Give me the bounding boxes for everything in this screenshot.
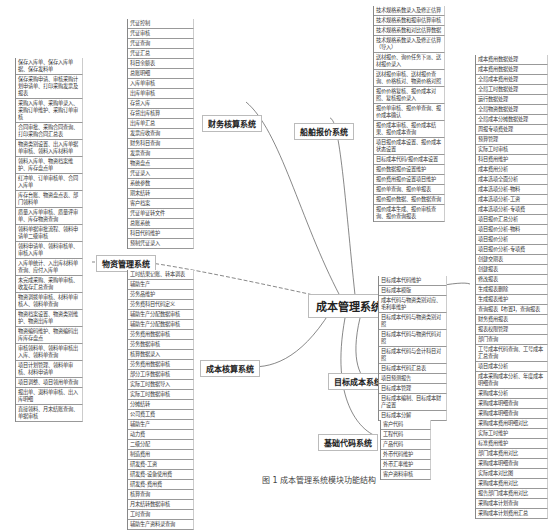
leaf-node[interactable]: 项目调整、项目领用单查询	[16, 378, 83, 388]
leaf-node[interactable]: 工程代码	[381, 430, 431, 440]
leaf-node[interactable]: 技术规格系数和对比估算数据	[374, 26, 445, 36]
leaf-node[interactable]: 期末结转	[128, 189, 194, 199]
leaf-node[interactable]: 送材报价、询价任务下派、送材报价录入	[374, 53, 445, 70]
leaf-node[interactable]: 领料入库单、物资档案维护、库存盘点单	[16, 157, 83, 174]
leaf-node[interactable]: 发票查询	[128, 149, 194, 159]
leaf-node[interactable]: 外币代码维护	[381, 450, 431, 460]
leaf-node[interactable]: 客户档案	[128, 199, 194, 209]
leaf-node[interactable]: 总账系统	[128, 219, 194, 229]
leaf-node[interactable]: 采购成本明细查询	[476, 459, 548, 469]
leaf-node[interactable]: 采购成本明细查询	[476, 399, 548, 409]
leaf-node[interactable]: 采购成本分析	[476, 389, 548, 399]
leaf-node[interactable]: 修改报表	[476, 275, 548, 285]
leaf-node[interactable]: 研发费-设备使用费	[128, 470, 194, 480]
leaf-node[interactable]: 生成报表维护	[476, 295, 548, 305]
leaf-node[interactable]: 报价价格复核、报价成本对照、复核报价录入	[374, 87, 445, 104]
leaf-node[interactable]: 报价报价数据、报价数据查询	[374, 195, 445, 205]
leaf-node[interactable]: 保存采购申请、审核采购计划申请单、打印采购发票及报表	[16, 75, 83, 99]
leaf-node[interactable]: 目标成本代码与会计科目对照	[379, 347, 447, 364]
leaf-node[interactable]: 合同审批、采购合同查询、打印采购合同汇总表	[16, 123, 83, 140]
leaf-node[interactable]: 报价成本审核、报价成本结果、报价成本查询	[374, 121, 445, 138]
leaf-node[interactable]: 实际工时数据审核	[128, 390, 194, 400]
leaf-node[interactable]: 审核领料单、领料单审核出入库、领料单查询	[16, 344, 83, 361]
leaf-node[interactable]: 分摊结转	[128, 400, 194, 410]
leaf-node[interactable]: 成本选项全面分析	[476, 175, 548, 185]
leaf-node[interactable]: 工时查询	[128, 510, 194, 520]
leaf-node[interactable]: 目标成本代码/报价成本设置	[374, 155, 445, 165]
leaf-node[interactable]: 工号成本代码查询、工号成本汇总查询	[476, 345, 548, 362]
leaf-node[interactable]: 工时结果记账、转本调表	[128, 270, 194, 280]
leaf-node[interactable]: 劳务费科目代码定义	[128, 300, 194, 310]
leaf-node[interactable]: 报价费用报价设置项目维护	[374, 175, 445, 185]
leaf-node[interactable]: 成本费用数据处理	[476, 55, 548, 65]
leaf-node[interactable]: 项目预测报告	[379, 374, 447, 384]
leaf-node[interactable]: 项目计划管理、领料单审核、材料申请单	[16, 361, 83, 378]
leaf-node[interactable]: 查询报表【布置】，查询报表	[476, 305, 548, 315]
leaf-node[interactable]: 库存台账、物资盘点表、部门领料单	[16, 191, 83, 208]
leaf-node[interactable]: 创建交期表	[476, 255, 548, 265]
branch-base-code[interactable]: 基础代码系统	[318, 434, 378, 451]
leaf-node[interactable]: 实际工时数据导入	[128, 380, 194, 390]
leaf-node[interactable]: 质量入库单审核、质量评审单、库存物资查询	[16, 208, 83, 225]
leaf-node[interactable]: 采购成本计划费用汇总	[476, 509, 548, 519]
leaf-node[interactable]: 研发费-费用费	[128, 480, 194, 490]
leaf-node[interactable]: 凭证录入	[128, 169, 194, 179]
leaf-node[interactable]: 辅助生产	[128, 280, 194, 290]
leaf-node[interactable]: 目标成本模版	[379, 286, 447, 296]
leaf-node[interactable]: 物资档案设置、物资类别维护、物资出库单	[16, 310, 83, 327]
leaf-node[interactable]: 外币汇率维护	[381, 460, 431, 470]
leaf-node[interactable]: 物资编码维护、物资编码出库库存盘点	[16, 327, 83, 344]
leaf-node[interactable]: 核算查询	[128, 490, 194, 500]
leaf-node[interactable]: 物资调拨单审核、材料单审核人、领料单查询	[16, 293, 83, 310]
leaf-node[interactable]: 研发费-工资	[128, 460, 194, 470]
leaf-node[interactable]: 项目报价分析-物料	[476, 225, 548, 235]
leaf-node[interactable]: 财务科目查询	[128, 139, 194, 149]
leaf-node[interactable]: 总账明细	[128, 69, 194, 79]
leaf-node[interactable]: 生成报表删除	[476, 285, 548, 295]
branch-ship-quotation[interactable]: 船舶报价系统	[294, 123, 354, 140]
leaf-node[interactable]: 目标成本代码维护	[379, 276, 447, 286]
leaf-node[interactable]: 物资类别设置、出入库单据单审核、领料入库材料单	[16, 140, 83, 157]
leaf-node[interactable]: 预算管理	[476, 135, 548, 145]
leaf-node[interactable]: 全局工时数据处理	[476, 85, 548, 95]
leaf-node[interactable]: 项目报价成本设置、报价成本状态设置	[374, 138, 445, 155]
leaf-node[interactable]: 劳务品维护	[128, 290, 194, 300]
leaf-node[interactable]: 报价单查询、报价单报表	[374, 185, 445, 195]
leaf-node[interactable]: 发票应收查询	[128, 129, 194, 139]
leaf-node[interactable]: 二级分配	[128, 440, 194, 450]
leaf-node[interactable]: 创建报表	[476, 265, 548, 275]
leaf-node[interactable]: 报价数据报价设置维护	[374, 165, 445, 175]
leaf-node[interactable]: 核算数据录入	[128, 350, 194, 360]
leaf-node[interactable]: 报表权限管理	[476, 325, 548, 335]
leaf-node[interactable]: 部分工序数据审核	[128, 370, 194, 380]
leaf-node[interactable]: 科目费用维护	[476, 155, 548, 165]
leaf-node[interactable]: 领料单据审批流程、领料申请单二级审核	[16, 225, 83, 242]
leaf-node[interactable]: 采购成本计划查询	[476, 499, 548, 509]
leaf-node[interactable]: 周报专项费处理	[476, 125, 548, 135]
leaf-node[interactable]: 入库单审核	[128, 79, 194, 89]
leaf-node[interactable]: 目标成本代码与物资类别对照	[379, 313, 447, 330]
leaf-node[interactable]: 成本选项分析-工资	[476, 195, 548, 205]
leaf-node[interactable]: 保存入库单、保存入库单据、保存发料单	[16, 58, 83, 75]
leaf-node[interactable]: 报价成本生成、报价审核查询、报价查询报表	[374, 205, 445, 222]
leaf-node[interactable]: 未完成采购、采购单审核、收发存汇总查询	[16, 276, 83, 293]
leaf-node[interactable]: 月末结转数据审核	[128, 500, 194, 510]
leaf-node[interactable]: 凭证审核	[128, 29, 194, 39]
leaf-node[interactable]: 目标成本管理	[379, 384, 447, 394]
leaf-node[interactable]: 全局成本费用处理	[476, 75, 548, 85]
leaf-node[interactable]: 劳务数据审核	[128, 340, 194, 350]
leaf-node[interactable]: 实际工时审核	[476, 145, 548, 155]
leaf-node[interactable]: 直接领料、月末结账查询、单据审核	[16, 405, 83, 422]
leaf-node[interactable]: 报价单审核、报价单查询、报价成本确认	[374, 104, 445, 121]
leaf-node[interactable]: 客户代码	[381, 420, 431, 430]
leaf-node[interactable]: 采购成本明细查询	[476, 409, 548, 419]
leaf-node[interactable]: 部门成本费用对比	[476, 449, 548, 459]
leaf-node[interactable]: 领料申请单、领料审核单、审核入库单	[16, 242, 83, 259]
leaf-node[interactable]: 凭证单证转文件	[128, 209, 194, 219]
branch-finance[interactable]: 财务核算系统	[202, 115, 262, 132]
leaf-node[interactable]: 辅助生产分配数据审核	[128, 310, 194, 320]
leaf-node[interactable]: 项目成本分析	[476, 362, 548, 372]
leaf-node[interactable]: 系统参数	[128, 179, 194, 189]
leaf-node[interactable]: 全局物资数据处理	[476, 105, 548, 115]
leaf-node[interactable]: 报告部门成本费用对比	[476, 489, 548, 499]
